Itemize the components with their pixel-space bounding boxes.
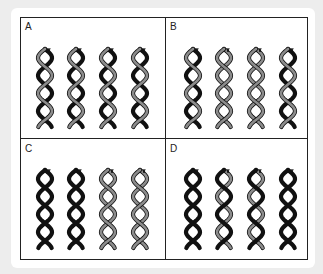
dna-helix — [66, 168, 86, 252]
dna-helix — [183, 168, 203, 252]
panel-label-b: B — [170, 21, 177, 32]
dna-helix — [98, 168, 118, 252]
panel-label-d: D — [170, 143, 177, 154]
dna-helix — [278, 168, 298, 252]
dna-helix — [35, 47, 55, 131]
horizontal-divider — [20, 138, 308, 139]
dna-helix — [246, 168, 266, 252]
dna-helix — [66, 47, 86, 131]
dna-helix — [130, 168, 150, 252]
dna-helix — [98, 47, 118, 131]
dna-helix — [35, 168, 55, 252]
dna-helix — [278, 47, 298, 131]
dna-helix — [214, 168, 234, 252]
dna-helix — [246, 47, 266, 131]
dna-helix — [183, 47, 203, 131]
panel-label-c: C — [25, 143, 32, 154]
dna-helix — [130, 47, 150, 131]
panel-label-a: A — [25, 21, 32, 32]
dna-helix — [214, 47, 234, 131]
